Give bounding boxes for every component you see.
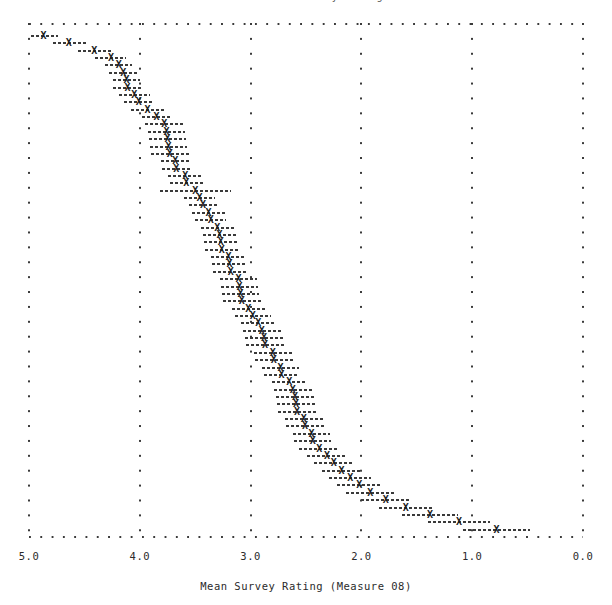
x-tick-label: 5.0 <box>9 549 49 563</box>
x-tick-label: 2.0 <box>341 549 381 563</box>
data-series-layer: XXXXXXXXXXXXXXXXXXXXXXXXXXXXXXXXXXXXXXXX… <box>29 23 583 538</box>
x-tick-label: 3.0 <box>231 549 271 563</box>
plot-area: XXXXXXXXXXXXXXXXXXXXXXXXXXXXXXXXXXXXXXXX… <box>29 23 583 538</box>
x-tick-label: 4.0 <box>120 549 160 563</box>
x-axis-label: Mean Survey Rating (Measure 08) <box>0 580 612 592</box>
chart-title: Ranked Mean Survey Ratings <box>0 0 612 3</box>
x-axis-tick-labels: 5.04.03.02.01.00.0 <box>0 549 612 563</box>
data-row: X <box>29 525 583 534</box>
x-tick-label: 0.0 <box>563 549 603 563</box>
data-point-marker: X <box>492 524 501 535</box>
x-tick-label: 1.0 <box>452 549 492 563</box>
